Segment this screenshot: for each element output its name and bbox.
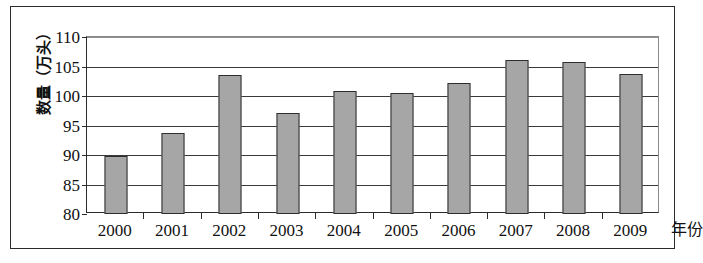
y-axis-tick-label: 80 (63, 206, 80, 223)
x-axis-tick-mark (430, 213, 431, 219)
bars-layer (87, 37, 658, 214)
bar-slot (87, 37, 144, 214)
x-axis-tick-label: 2004 (327, 222, 361, 239)
bar-2000 (104, 156, 127, 214)
bar-slot (144, 37, 201, 214)
bar-2006 (448, 83, 471, 214)
x-axis-tick-mark (373, 213, 374, 219)
y-axis-tick-label: 85 (63, 176, 80, 193)
x-axis-tick-mark (602, 213, 603, 219)
x-axis-title: 年份 (671, 222, 703, 238)
x-axis-tick-label: 2002 (212, 222, 246, 239)
x-axis-tick-label: 2001 (155, 222, 189, 239)
y-axis-tick-label: 90 (63, 147, 80, 164)
x-axis-tick-mark (143, 213, 144, 219)
bar-2005 (391, 93, 414, 214)
x-axis-tick-mark (315, 213, 316, 219)
y-axis-tick-label: 105 (55, 58, 81, 75)
x-axis-tick-label: 2003 (270, 222, 304, 239)
bar-slot (545, 37, 602, 214)
y-axis-tick-label: 100 (55, 88, 81, 105)
x-axis-tick-mark (258, 213, 259, 219)
x-axis-tick-mark (201, 213, 202, 219)
x-axis-tick-mark (544, 213, 545, 219)
x-axis-tick-label: 2007 (499, 222, 533, 239)
x-axis-tick-mark (487, 213, 488, 219)
bar-chart: 80859095100105110 2000200120022003200420… (86, 36, 659, 219)
bar-2003 (276, 113, 299, 214)
x-axis-tick-label: 2000 (98, 222, 132, 239)
x-axis-tick-label: 2006 (441, 222, 475, 239)
figure-frame: 数量（万头） 80859095100105110 200020012002200… (10, 6, 675, 249)
plot-area: 80859095100105110 (86, 36, 659, 213)
y-axis-tick-label: 110 (55, 29, 80, 46)
bar-slot (488, 37, 545, 214)
bar-2001 (161, 133, 184, 214)
bar-slot (259, 37, 316, 214)
bar-2008 (563, 62, 586, 214)
y-axis-tick-mark (82, 214, 87, 215)
bar-2007 (505, 60, 528, 214)
bar-2009 (620, 74, 643, 214)
y-axis-title: 数量（万头） (32, 0, 53, 145)
x-axis-tick-label: 2009 (613, 222, 647, 239)
bar-slot (431, 37, 488, 214)
bar-slot (603, 37, 660, 214)
bar-slot (202, 37, 259, 214)
x-axis-tick-label: 2005 (384, 222, 418, 239)
bar-2004 (333, 91, 356, 214)
bar-2002 (219, 75, 242, 214)
bar-slot (374, 37, 431, 214)
y-axis-tick-label: 95 (63, 117, 80, 134)
bar-slot (316, 37, 373, 214)
x-axis-tick-label: 2008 (556, 222, 590, 239)
